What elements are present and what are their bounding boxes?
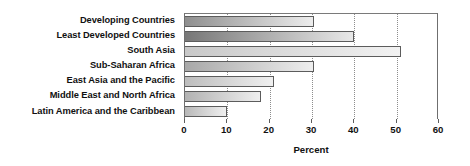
bar-row (185, 59, 437, 74)
x-tick-label: 40 (348, 124, 359, 135)
x-tick (311, 119, 312, 123)
category-label: Least Developed Countries (0, 28, 180, 43)
bar-5 (185, 76, 274, 87)
category-label: Sub-Saharan Africa (0, 58, 180, 73)
category-label: Middle East and North Africa (0, 88, 180, 103)
x-tick-label: 60 (433, 124, 444, 135)
x-tick (396, 119, 397, 123)
x-tick (353, 119, 354, 123)
category-label: Developing Countries (0, 13, 180, 28)
bar-row (185, 14, 437, 29)
bar-chart: Developing Countries Least Developed Cou… (0, 0, 470, 166)
x-tick-label: 0 (181, 124, 186, 135)
x-tick (269, 119, 270, 123)
bar-row (185, 74, 437, 89)
x-tick (226, 119, 227, 123)
x-tick-label: 30 (306, 124, 317, 135)
bar-4 (185, 61, 314, 72)
bar-row (185, 44, 437, 59)
bar-row (185, 104, 437, 119)
x-axis: 0102030405060 (184, 119, 438, 124)
bar-row (185, 89, 437, 104)
x-tick (184, 119, 185, 123)
bar-7 (185, 106, 227, 117)
category-label: South Asia (0, 43, 180, 58)
bar-3 (185, 46, 401, 57)
x-tick-label: 20 (263, 124, 274, 135)
plot-area (184, 13, 438, 119)
x-tick-label: 10 (221, 124, 232, 135)
bar-series (185, 14, 437, 119)
bar-1 (185, 16, 314, 27)
x-tick-label: 50 (390, 124, 401, 135)
category-axis-labels: Developing Countries Least Developed Cou… (0, 13, 180, 119)
x-axis-title: Percent (184, 144, 438, 155)
x-tick (438, 119, 439, 123)
category-label: East Asia and the Pacific (0, 73, 180, 88)
category-label: Latin America and the Caribbean (0, 104, 180, 119)
bar-2 (185, 31, 354, 42)
bar-row (185, 29, 437, 44)
bar-6 (185, 91, 261, 102)
